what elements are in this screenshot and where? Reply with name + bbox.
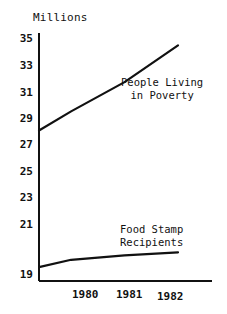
line-chart: Millions 35 33 31 29 27 25 23 21 19 1980… <box>0 0 227 314</box>
series-line-people-living-in-poverty <box>39 45 178 130</box>
plot-area <box>0 0 227 314</box>
series-line-food-stamp-recipients <box>39 252 178 267</box>
